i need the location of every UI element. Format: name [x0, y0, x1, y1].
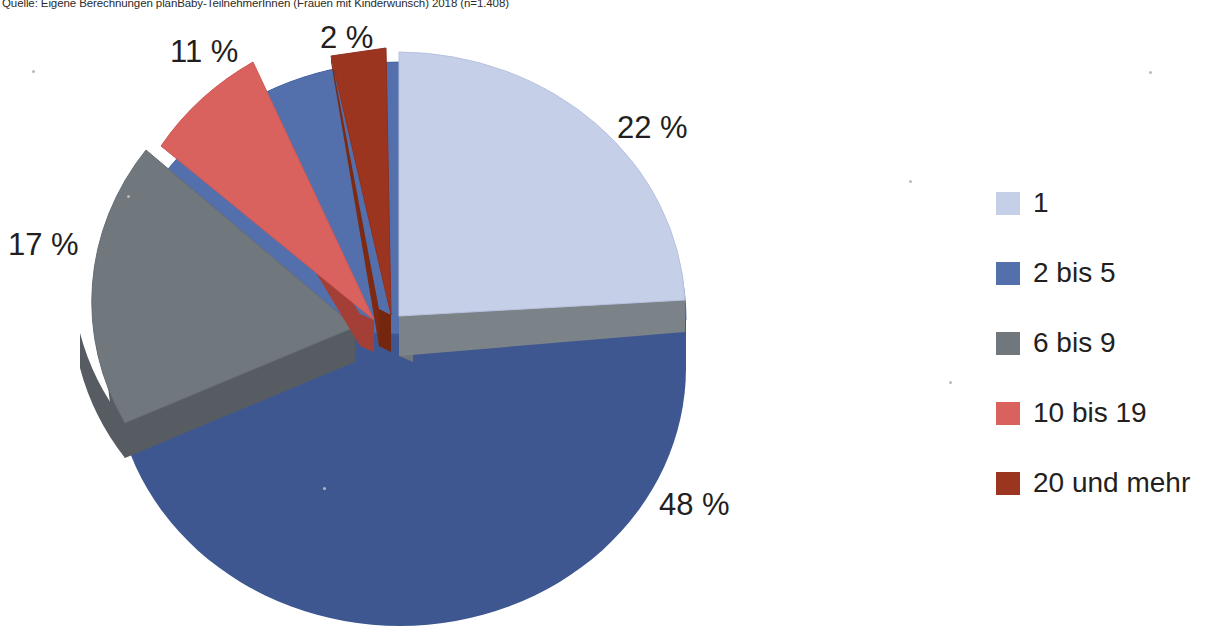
legend-item-2-bis-5[interactable]: 2 bis 5	[996, 238, 1217, 308]
legend-label: 6 bis 9	[1033, 328, 1116, 358]
pie-label-48-percent: 48 %	[659, 489, 730, 520]
legend-item-6-bis-9[interactable]: 6 bis 9	[996, 308, 1217, 378]
legend-item-20-und-mehr[interactable]: 20 und mehr	[996, 448, 1217, 518]
legend-swatch-icon	[996, 402, 1020, 425]
legend-item-10-bis-19[interactable]: 10 bis 19	[996, 378, 1217, 448]
legend-swatch-icon	[996, 472, 1020, 495]
legend-item-1[interactable]: 1	[996, 168, 1217, 238]
scan-speck	[909, 180, 912, 183]
chart-legend: 1 2 bis 5 6 bis 9 10 bis 19 20 und mehr	[996, 168, 1217, 518]
pie-slice-1[interactable]	[399, 52, 685, 362]
legend-swatch-icon	[996, 332, 1020, 355]
legend-label: 1	[1033, 188, 1049, 218]
pie-label-22-percent: 22 %	[617, 112, 688, 143]
legend-swatch-icon	[996, 192, 1020, 215]
scan-speck	[127, 195, 130, 198]
pie-label-2-percent: 2 %	[320, 22, 373, 53]
pie-label-17-percent: 17 %	[8, 229, 79, 260]
pie-label-11-percent: 11 %	[170, 36, 238, 67]
legend-label: 20 und mehr	[1033, 468, 1190, 498]
scan-speck	[949, 381, 952, 384]
legend-swatch-icon	[996, 262, 1020, 285]
legend-label: 10 bis 19	[1033, 398, 1147, 428]
scan-speck	[323, 487, 326, 490]
legend-label: 2 bis 5	[1033, 258, 1116, 288]
scan-speck	[1149, 71, 1152, 74]
scan-speck	[32, 70, 35, 73]
